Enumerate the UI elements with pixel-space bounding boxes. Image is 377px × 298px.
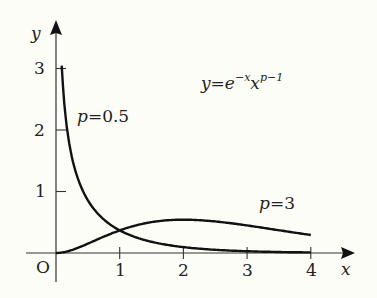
plot-area: [0, 0, 377, 298]
y-axis-arrow-icon: [50, 20, 62, 35]
curve-p-0-5: [62, 66, 311, 253]
y-tick-label-3: 3: [34, 60, 45, 77]
formula-label: y=e−xxp−1: [201, 72, 283, 92]
x-tick-label-1: 1: [115, 262, 126, 279]
curve-label-p-3: p=3: [259, 195, 295, 212]
x-tick-label-2: 2: [178, 262, 189, 279]
x-tick-label-3: 3: [242, 262, 253, 279]
origin-label: O: [36, 259, 50, 276]
x-axis-arrow-icon: [341, 247, 355, 259]
x-axis-label: x: [341, 261, 351, 278]
curve-label-p-0-5: p=0.5: [77, 108, 129, 125]
y-tick-label-1: 1: [35, 183, 46, 200]
y-axis-label: y: [31, 25, 41, 42]
chart: y x O 3 2 1 1 2 3 4 p=0.5 p=3 y=e−xxp−1: [0, 0, 377, 298]
y-tick-label-2: 2: [34, 122, 45, 139]
x-tick-label-4: 4: [306, 262, 317, 279]
